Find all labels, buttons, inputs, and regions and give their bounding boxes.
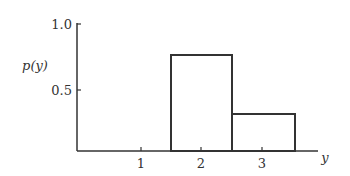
x-axis-label: y — [320, 150, 329, 165]
ytick-label: 0.5 — [51, 83, 72, 98]
y-axis-label: p(y) — [22, 58, 48, 73]
xtick-label: 3 — [258, 156, 266, 171]
bar-y-3 — [232, 114, 295, 151]
xtick-label: 1 — [137, 156, 145, 171]
ytick-label: 1.0 — [51, 17, 72, 32]
xtick-label: 2 — [197, 156, 205, 171]
probability-histogram: 1.0 0.5 1 2 3 y p(y) — [0, 0, 350, 176]
bar-y-2 — [171, 55, 232, 151]
